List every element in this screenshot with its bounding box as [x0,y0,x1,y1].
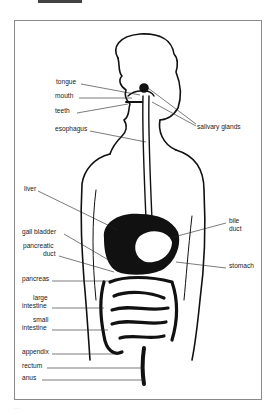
face-profile [110,58,130,154]
label-appendix: appendix [22,348,49,355]
label-esophagus: esophagus [55,125,87,132]
label-teeth: teeth [55,107,70,114]
label-anus: anus [22,374,36,381]
esophagus [143,96,146,220]
label-salivary-glands: salivary glands [197,123,241,130]
label-pancreatic-duct: pancreatic [23,242,53,249]
label-large-intestine: large [33,294,48,301]
label-rectum: rectum [22,362,42,369]
head-outline [116,34,180,120]
label-mouth: mouth [55,92,73,99]
label-gall-bladder: gall bladder [22,228,56,235]
label-pancreatic-duct-line2: duct [43,250,55,257]
label-stomach: stomach [229,262,254,269]
label-tongue: tongue [56,78,76,85]
neck-outline [160,120,176,150]
arm-right [184,216,192,300]
label-bile-duct: bile [229,217,239,224]
torso-right [176,150,205,360]
label-pancreas: pancreas [22,275,49,282]
label-small-intestine: small [33,316,48,323]
label-large-intestine-line2: intestine [22,302,47,309]
esophagus-inner [149,96,152,220]
label-liver: liver [24,185,36,192]
torso-left [81,154,110,360]
label-small-intestine-line2: intestine [22,324,47,331]
figure-caption: ... [14,404,21,410]
arm-left [93,190,96,300]
label-bile-duct-line2: duct [229,225,241,232]
